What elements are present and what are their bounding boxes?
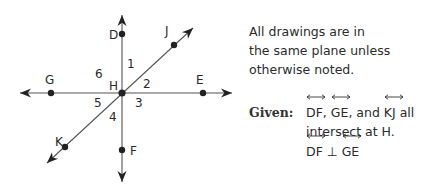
line-ge-notation: GE — [331, 103, 349, 122]
angle-label-3: 3 — [135, 96, 143, 110]
angle-label-5: 5 — [94, 96, 102, 110]
double-arrow-icon — [306, 133, 326, 139]
double-arrow-icon — [331, 94, 351, 100]
point-label-d: D — [109, 28, 118, 42]
given-row-2: intersect at H. — [249, 122, 293, 141]
point-label-h: H — [109, 79, 118, 93]
point-label-j: J — [164, 24, 169, 38]
lines-group — [20, 15, 232, 182]
perpendicular-symbol: ⊥ — [323, 144, 342, 159]
given-statement: Given: DF, GE, and KJ all intersect at H… — [249, 103, 293, 161]
point-j — [171, 42, 177, 48]
note-line-2: the same plane unless — [249, 41, 429, 60]
given-row-3: DF ⊥ GE — [249, 142, 293, 161]
note-line-1: All drawings are in — [249, 22, 429, 41]
note-line-3: otherwise noted. — [249, 60, 429, 79]
point-h — [118, 89, 125, 96]
double-arrow-icon — [342, 133, 362, 139]
point-label-g: G — [45, 73, 54, 87]
double-arrow-icon — [384, 94, 404, 100]
line-ge-notation: GE — [342, 142, 360, 161]
point-label-k: K — [55, 135, 64, 149]
geometry-diagram: DJGEKFH123456 — [0, 0, 240, 192]
point-e — [200, 90, 206, 96]
angle-label-1: 1 — [127, 57, 135, 71]
given-lines-list: DF, GE, and KJ all — [306, 103, 414, 122]
perpendicular-statement: DF ⊥ GE — [306, 142, 359, 161]
angle-label-4: 4 — [109, 110, 117, 124]
plane-note: All drawings are in the same plane unles… — [249, 22, 429, 79]
point-label-f: F — [130, 144, 137, 158]
point-f — [119, 147, 125, 153]
double-arrow-icon — [306, 94, 326, 100]
angle-label-6: 6 — [95, 67, 103, 81]
line-df-notation: DF — [306, 142, 323, 161]
point-g — [48, 90, 54, 96]
line-kj-notation: KJ — [384, 103, 396, 122]
points-group — [48, 31, 206, 153]
point-label-e: E — [196, 73, 204, 87]
point-d — [119, 31, 125, 37]
line-df-notation: DF — [306, 103, 323, 122]
given-row-1: Given: DF, GE, and KJ all — [249, 103, 293, 122]
given-label: Given: — [249, 105, 293, 120]
angle-label-2: 2 — [143, 77, 151, 91]
